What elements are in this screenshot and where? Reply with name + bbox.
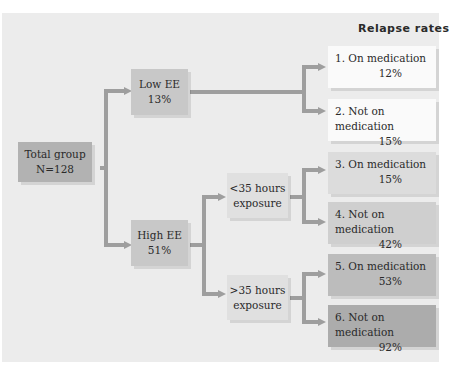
arrow-icon [318,270,326,278]
under-35-line2: exposure [227,196,288,211]
outcome-3-box: 3. On medication 15% [328,152,436,194]
high-ee-box: High EE 51% [131,220,188,266]
outcome-5-rate: 53% [335,274,430,289]
connector-low-ee-vertical [302,65,306,113]
outcome-6-label: 6. Not on medication [335,310,430,340]
connector-root-vertical [104,89,108,247]
under-35-hours-box: <35 hours exposure [227,173,288,218]
connector-over-35-vertical [302,272,306,324]
low-ee-label: Low EE [131,77,188,92]
outcome-4-label: 4. Not on medication [335,207,430,237]
over-35-line2: exposure [227,298,288,313]
outcome-5-box: 5. On medication 53% [328,254,436,296]
total-group-n: N=128 [18,162,92,177]
outcome-1-box: 1. On medication 12% [328,46,436,88]
over-35-line1: >35 hours [227,283,288,298]
outcome-6-box: 6. Not on medication 92% [328,305,436,347]
over-35-hours-box: >35 hours exposure [227,275,288,320]
outcome-3-label: 3. On medication [335,157,430,172]
under-35-line1: <35 hours [227,181,288,196]
outcome-3-rate: 15% [335,172,430,187]
outcome-1-rate: 12% [335,66,430,81]
arrow-icon [318,218,326,226]
arrow-icon [318,166,326,174]
low-ee-box: Low EE 13% [131,69,188,115]
outcome-2-rate: 15% [335,134,430,149]
outcome-2-box: 2. Not on medication 15% [328,99,436,141]
outcome-6-rate: 92% [335,340,430,355]
relapse-rates-title: Relapse rates [358,22,449,35]
arrow-icon [318,107,326,115]
outcome-4-box: 4. Not on medication 42% [328,202,436,244]
connector-under-35-vertical [302,168,306,224]
connector-high-ee-vertical [202,195,206,296]
outcome-4-rate: 42% [335,237,430,252]
connector-low-ee-horizontal [190,90,304,94]
arrow-icon [218,290,226,298]
arrow-icon [218,193,226,201]
arrow-icon [318,318,326,326]
outcome-1-label: 1. On medication [335,51,430,66]
total-group-box: Total group N=128 [18,142,92,182]
high-ee-value: 51% [131,243,188,258]
outcome-5-label: 5. On medication [335,259,430,274]
outcome-2-label: 2. Not on medication [335,104,430,134]
arrow-icon [318,63,326,71]
low-ee-value: 13% [131,92,188,107]
total-group-label: Total group [18,147,92,162]
high-ee-label: High EE [131,228,188,243]
